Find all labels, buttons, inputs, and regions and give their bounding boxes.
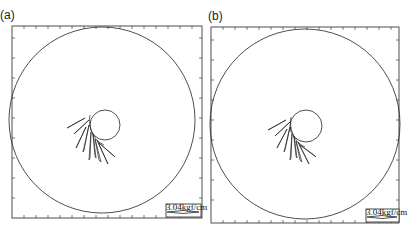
panel-a-frame (12, 26, 202, 218)
panel-b-outer-circle (210, 29, 400, 219)
panel-a-scale-label: 3.04kgf/cm (166, 202, 207, 212)
panel-b-stress-vectors (268, 117, 316, 164)
panel-a-plot (9, 26, 202, 218)
panel-b-scale-label: 3.04kgf/cm (366, 207, 407, 217)
panel-b-frame (211, 27, 399, 223)
panel-a-ticks (12, 26, 202, 218)
panel-b-ticks (211, 27, 399, 223)
panel-a-outer-circle (9, 27, 195, 213)
figure-canvas: 3.04kgf/cm 3.04kgf/cm (0, 0, 411, 236)
panel-a-inner-circle (90, 110, 120, 140)
panel-b-inner-circle (290, 110, 322, 142)
panel-b-plot (210, 27, 400, 223)
